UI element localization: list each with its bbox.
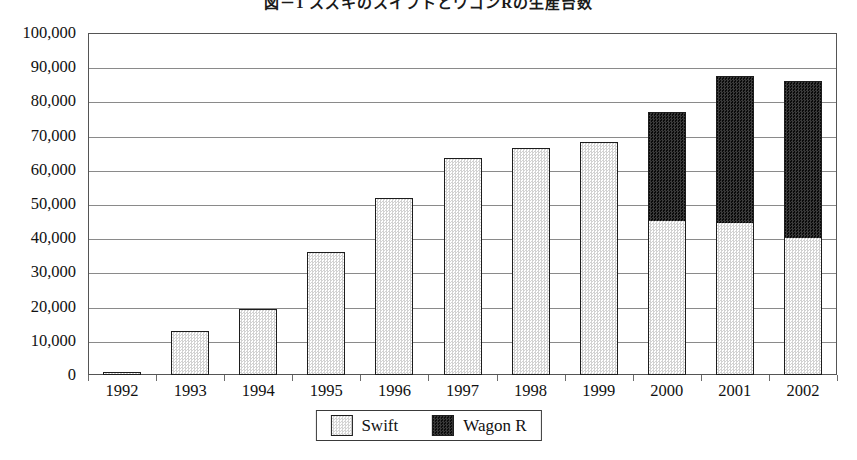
y-axis-tick-label: 60,000 xyxy=(0,162,82,179)
y-axis-tick-label: 30,000 xyxy=(0,264,82,281)
x-axis-tick xyxy=(769,375,770,381)
bar-group[interactable] xyxy=(580,142,618,375)
bar-group[interactable] xyxy=(375,198,413,375)
x-axis-tick xyxy=(360,375,361,381)
y-axis-tick-label: 70,000 xyxy=(0,127,82,144)
y-axis-tick-label: 100,000 xyxy=(0,25,82,42)
y-axis-tick-label: 50,000 xyxy=(0,196,82,213)
bar-group[interactable] xyxy=(648,112,686,375)
x-axis-tick xyxy=(156,375,157,381)
x-axis-tick xyxy=(88,375,89,381)
x-axis-tick-label: 1992 xyxy=(106,383,139,400)
x-axis-tick-label: 1995 xyxy=(310,383,343,400)
bars-layer xyxy=(88,33,837,375)
x-axis-tick xyxy=(224,375,225,381)
bar-segment-swift[interactable] xyxy=(239,309,277,375)
x-axis-tick xyxy=(497,375,498,381)
x-axis-labels: 1992199319941995199619971998199920002001… xyxy=(88,383,837,405)
y-axis-tick-label: 90,000 xyxy=(0,59,82,76)
bar-segment-swift[interactable] xyxy=(580,142,618,375)
bar-segment-swift[interactable] xyxy=(716,223,754,375)
y-axis-tick-label: 0 xyxy=(0,367,82,384)
legend-label: Swift xyxy=(361,417,398,434)
x-axis-tick xyxy=(428,375,429,381)
chart-legend: SwiftWagon R xyxy=(315,410,541,441)
x-axis-tick-label: 2001 xyxy=(718,383,751,400)
bar-segment-swift[interactable] xyxy=(375,198,413,375)
x-axis-tick xyxy=(837,375,838,381)
bar-segment-swift[interactable] xyxy=(784,238,822,375)
bar-group[interactable] xyxy=(307,252,345,375)
x-axis-tick-label: 2002 xyxy=(786,383,819,400)
y-axis-tick-label: 80,000 xyxy=(0,93,82,110)
wagon-r-swatch-icon xyxy=(432,415,454,436)
bar-group[interactable] xyxy=(512,148,550,375)
y-axis-tick-label: 10,000 xyxy=(0,333,82,350)
y-axis-tick-label: 20,000 xyxy=(0,298,82,315)
bar-group[interactable] xyxy=(171,331,209,375)
chart-title: 図－1 スズキのスイフトとワゴンRの生産台数 xyxy=(0,0,857,12)
x-axis-tick xyxy=(633,375,634,381)
y-axis-labels: 100,00090,00080,00070,00060,00050,00040,… xyxy=(0,0,82,460)
bar-segment-wagon-r[interactable] xyxy=(784,81,822,238)
x-axis-tick-label: 1998 xyxy=(514,383,547,400)
bar-segment-swift[interactable] xyxy=(171,331,209,375)
bar-segment-swift[interactable] xyxy=(648,221,686,375)
legend-label: Wagon R xyxy=(463,417,526,434)
x-axis-tick-label: 1997 xyxy=(446,383,479,400)
bar-group[interactable] xyxy=(239,309,277,375)
bar-segment-wagon-r[interactable] xyxy=(716,76,754,223)
y-axis-tick-label: 40,000 xyxy=(0,230,82,247)
bar-segment-wagon-r[interactable] xyxy=(648,112,686,221)
bar-segment-swift[interactable] xyxy=(444,158,482,375)
x-axis-tick-label: 1996 xyxy=(378,383,411,400)
x-axis-tick-label: 1993 xyxy=(174,383,207,400)
bar-group[interactable] xyxy=(716,76,754,375)
bar-segment-swift[interactable] xyxy=(307,252,345,375)
x-axis-tick xyxy=(565,375,566,381)
x-axis-tick-label: 1999 xyxy=(582,383,615,400)
bar-group[interactable] xyxy=(784,81,822,375)
chart-container: 図－1 スズキのスイフトとワゴンRの生産台数 100,00090,00080,0… xyxy=(0,0,857,460)
swift-swatch-icon xyxy=(330,415,352,436)
x-axis-tick-label: 2000 xyxy=(650,383,683,400)
legend-item[interactable]: Wagon R xyxy=(432,415,526,436)
x-axis-tick-label: 1994 xyxy=(242,383,275,400)
bar-segment-swift[interactable] xyxy=(512,148,550,375)
x-axis-tick xyxy=(292,375,293,381)
x-axis-tick xyxy=(701,375,702,381)
legend-item[interactable]: Swift xyxy=(330,415,398,436)
bar-group[interactable] xyxy=(444,158,482,375)
